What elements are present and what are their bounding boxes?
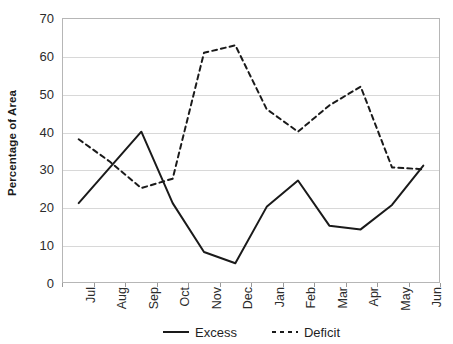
line-chart: Percentage of Area 010203040506070 JulAu… [0,0,453,344]
x-axis-tick-mark [125,283,126,287]
x-axis-tick-mark [157,283,158,287]
y-axis-tick-label: 10 [40,238,54,253]
x-axis-tick-mark [409,283,410,287]
legend-swatch-solid [162,327,190,337]
x-axis-tick-label: Dec [241,287,255,309]
x-axis-tick-mark [188,283,189,287]
x-axis-tick-mark [94,283,95,287]
y-axis-title-text: Percentage of Area [6,89,18,195]
x-axis-tick-label: Feb [304,287,318,309]
x-axis-tick-label: Jun [430,287,444,307]
series-line-deficit [79,45,424,188]
y-axis-title: Percentage of Area [0,0,24,285]
x-axis-tick-label: Sep [147,287,161,309]
x-axis-tick-mark [377,283,378,287]
x-axis-tick-label: Jan [273,287,287,307]
x-axis-tick-label: Apr [367,287,381,306]
x-axis-tick-label: Aug [115,287,129,309]
y-axis-tick-label: 30 [40,162,54,177]
x-axis-tick-label: Nov [210,287,224,309]
x-axis-tick-mark [314,283,315,287]
legend-item-deficit[interactable]: Deficit [271,325,340,340]
chart-legend: ExcessDeficit [62,322,440,342]
y-axis-tick-label: 70 [40,11,54,26]
y-axis-tick-label: 50 [40,86,54,101]
x-axis-tick-mark [251,283,252,287]
y-axis-tick-label: 20 [40,200,54,215]
x-axis-tick-label: Oct [178,287,192,306]
x-axis-tick-label: Jul [84,287,98,303]
y-axis-tick-labels: 010203040506070 [24,0,58,300]
legend-label: Excess [195,325,237,340]
y-axis-tick-label: 40 [40,124,54,139]
y-axis-tick-label: 60 [40,48,54,63]
x-axis-tick-mark [440,283,441,287]
x-axis-tick-label: Mar [336,287,350,309]
legend-label: Deficit [304,325,340,340]
legend-item-excess[interactable]: Excess [162,325,237,340]
x-axis-tick-label: May [399,287,413,311]
legend-swatch-dashed [271,327,299,337]
x-axis-tick-mark [283,283,284,287]
x-axis-tick-mark [62,283,63,287]
x-axis-tick-mark [220,283,221,287]
series-line-excess [79,132,424,264]
x-axis-tick-mark [346,283,347,287]
y-axis-tick-label: 0 [47,276,54,291]
plot-area [62,18,440,283]
plot-lines [63,19,439,282]
